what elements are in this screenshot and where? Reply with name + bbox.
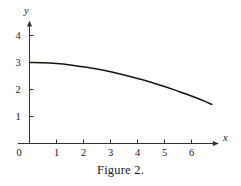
x-tick-label-5: 5 bbox=[158, 147, 172, 158]
x-tick-label-0: 0 bbox=[12, 147, 26, 158]
x-tick-label-3: 3 bbox=[104, 147, 118, 158]
figure-caption: Figure 2. bbox=[0, 163, 241, 178]
y-tick-label-2: 2 bbox=[11, 84, 25, 95]
y-axis-label: y bbox=[24, 5, 29, 16]
y-tick-label-3: 3 bbox=[11, 57, 25, 68]
x-tick-label-1: 1 bbox=[50, 147, 64, 158]
x-axis-label: x bbox=[223, 132, 228, 143]
plot-area bbox=[0, 0, 241, 186]
x-tick-label-2: 2 bbox=[77, 147, 91, 158]
x-tick-label-4: 4 bbox=[131, 147, 145, 158]
y-tick-label-1: 1 bbox=[11, 111, 25, 122]
y-axis-arrowhead bbox=[27, 21, 32, 27]
y-tick-label-4: 4 bbox=[11, 30, 25, 41]
x-tick-label-6: 6 bbox=[185, 147, 199, 158]
figure-container: y x 4 3 2 1 0 1 2 3 4 5 6 Figure 2. bbox=[0, 0, 241, 186]
plotted-curve bbox=[30, 63, 212, 105]
x-axis-arrowhead bbox=[213, 141, 219, 146]
